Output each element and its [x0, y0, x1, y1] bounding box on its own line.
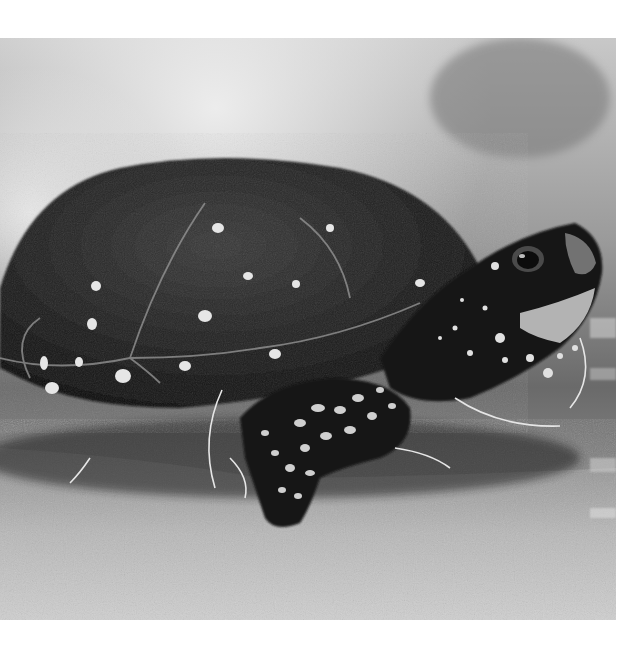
turtle-photo: Black and white photograph of a spotted …: [0, 38, 616, 620]
turtle-illustration: [0, 38, 616, 620]
